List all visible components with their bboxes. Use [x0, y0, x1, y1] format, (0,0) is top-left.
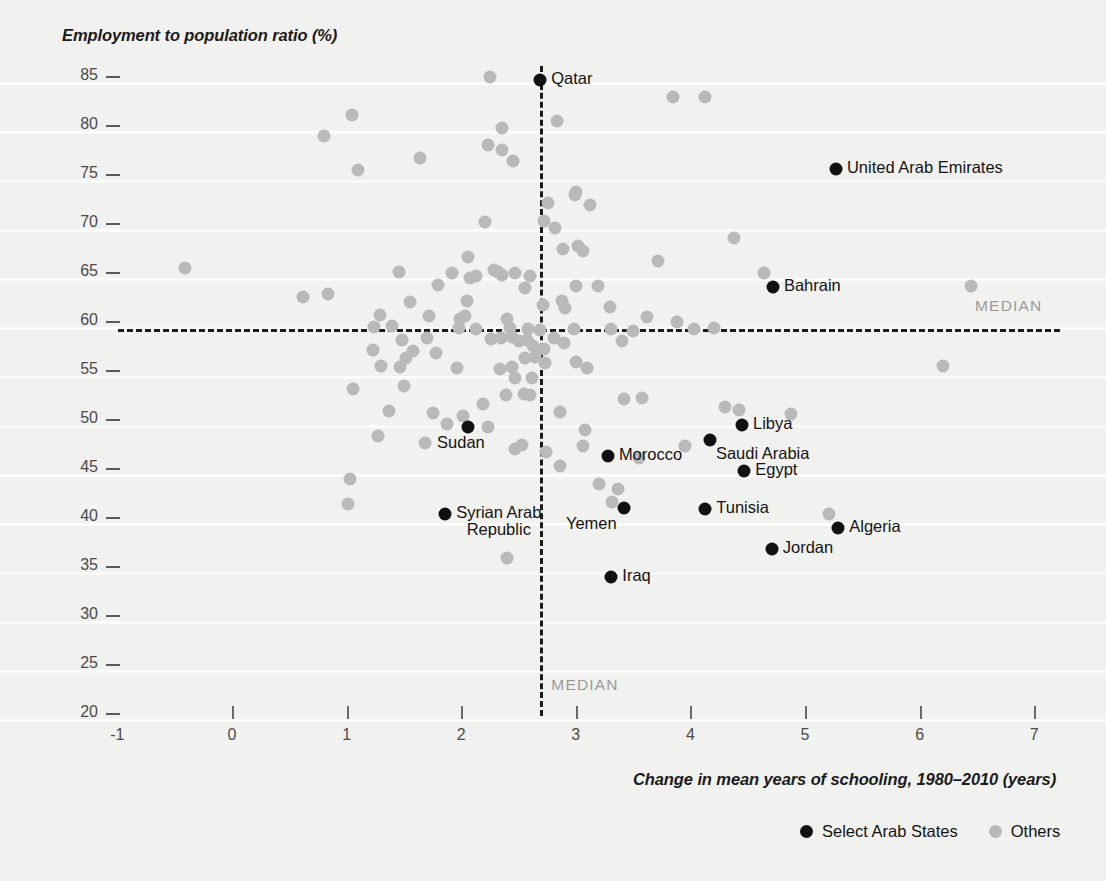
- data-point-libya[interactable]: [735, 418, 748, 431]
- data-point-other[interactable]: [499, 388, 512, 401]
- data-point-other[interactable]: [553, 406, 566, 419]
- data-point-qatar[interactable]: [534, 73, 547, 86]
- data-point-other[interactable]: [551, 115, 564, 128]
- data-point-other[interactable]: [423, 310, 436, 323]
- data-point-tunisia[interactable]: [699, 503, 712, 516]
- data-point-other[interactable]: [687, 322, 700, 335]
- data-point-other[interactable]: [386, 319, 399, 332]
- data-point-other[interactable]: [534, 323, 547, 336]
- data-point-other[interactable]: [509, 371, 522, 384]
- data-point-other[interactable]: [470, 322, 483, 335]
- data-point-other[interactable]: [341, 498, 354, 511]
- data-point-other[interactable]: [420, 331, 433, 344]
- data-point-other[interactable]: [509, 266, 522, 279]
- data-point-united-arab-emirates[interactable]: [829, 163, 842, 176]
- data-point-other[interactable]: [366, 344, 379, 357]
- data-point-other[interactable]: [317, 129, 330, 142]
- data-point-other[interactable]: [483, 70, 496, 83]
- data-point-other[interactable]: [581, 362, 594, 375]
- data-point-other[interactable]: [538, 357, 551, 370]
- data-point-other[interactable]: [617, 393, 630, 406]
- data-point-other[interactable]: [374, 360, 387, 373]
- data-point-other[interactable]: [393, 266, 406, 279]
- data-point-other[interactable]: [470, 269, 483, 282]
- data-point-other[interactable]: [400, 352, 413, 365]
- data-point-other[interactable]: [450, 362, 463, 375]
- data-point-iraq[interactable]: [605, 570, 618, 583]
- data-point-other[interactable]: [496, 144, 509, 157]
- data-point-other[interactable]: [936, 360, 949, 373]
- data-point-other[interactable]: [479, 216, 492, 229]
- data-point-other[interactable]: [557, 243, 570, 256]
- data-point-other[interactable]: [640, 311, 653, 324]
- data-point-other[interactable]: [592, 477, 605, 490]
- data-point-other[interactable]: [413, 152, 426, 165]
- data-point-other[interactable]: [567, 322, 580, 335]
- data-point-other[interactable]: [476, 398, 489, 411]
- data-point-other[interactable]: [432, 278, 445, 291]
- data-point-other[interactable]: [718, 401, 731, 414]
- data-point-other[interactable]: [578, 423, 591, 436]
- data-point-other[interactable]: [403, 296, 416, 309]
- data-point-other[interactable]: [965, 279, 978, 292]
- data-point-other[interactable]: [576, 440, 589, 453]
- data-point-other[interactable]: [542, 197, 555, 210]
- data-point-other[interactable]: [667, 90, 680, 103]
- data-point-other[interactable]: [481, 138, 494, 151]
- data-point-other[interactable]: [553, 460, 566, 473]
- data-point-other[interactable]: [322, 287, 335, 300]
- data-point-other[interactable]: [519, 281, 532, 294]
- data-point-other[interactable]: [352, 164, 365, 177]
- data-point-other[interactable]: [605, 322, 618, 335]
- data-point-other[interactable]: [732, 404, 745, 417]
- data-point-other[interactable]: [179, 262, 192, 275]
- data-point-other[interactable]: [604, 301, 617, 314]
- data-point-other[interactable]: [757, 266, 770, 279]
- data-point-other[interactable]: [615, 334, 628, 347]
- data-point-other[interactable]: [708, 321, 721, 334]
- data-point-yemen[interactable]: [617, 502, 630, 515]
- data-point-other[interactable]: [591, 279, 604, 292]
- data-point-other[interactable]: [569, 279, 582, 292]
- data-point-other[interactable]: [558, 336, 571, 349]
- data-point-other[interactable]: [383, 405, 396, 418]
- data-point-other[interactable]: [395, 333, 408, 346]
- data-point-other[interactable]: [368, 320, 381, 333]
- data-point-sudan[interactable]: [462, 420, 475, 433]
- data-point-other[interactable]: [699, 90, 712, 103]
- data-point-other[interactable]: [371, 429, 384, 442]
- data-point-other[interactable]: [523, 389, 536, 402]
- data-point-jordan[interactable]: [765, 543, 778, 556]
- data-point-other[interactable]: [441, 417, 454, 430]
- data-point-other[interactable]: [452, 321, 465, 334]
- data-point-other[interactable]: [540, 446, 553, 459]
- data-point-egypt[interactable]: [738, 464, 751, 477]
- data-point-bahrain[interactable]: [766, 280, 779, 293]
- data-point-other[interactable]: [496, 121, 509, 134]
- data-point-morocco[interactable]: [601, 450, 614, 463]
- data-point-other[interactable]: [670, 315, 683, 328]
- data-point-other[interactable]: [481, 420, 494, 433]
- data-point-other[interactable]: [823, 508, 836, 521]
- data-point-other[interactable]: [297, 290, 310, 303]
- data-point-other[interactable]: [426, 407, 439, 420]
- data-point-other[interactable]: [576, 245, 589, 258]
- data-point-other[interactable]: [418, 436, 431, 449]
- data-point-algeria[interactable]: [832, 521, 845, 534]
- data-point-other[interactable]: [501, 552, 514, 565]
- data-point-other[interactable]: [488, 264, 501, 277]
- data-point-other[interactable]: [612, 482, 625, 495]
- data-point-other[interactable]: [397, 379, 410, 392]
- data-point-other[interactable]: [727, 231, 740, 244]
- data-point-other[interactable]: [346, 109, 359, 122]
- data-point-other[interactable]: [462, 251, 475, 264]
- data-point-other[interactable]: [568, 188, 581, 201]
- data-point-other[interactable]: [460, 295, 473, 308]
- data-point-other[interactable]: [506, 155, 519, 168]
- data-point-other[interactable]: [344, 472, 357, 485]
- data-point-other[interactable]: [627, 324, 640, 337]
- data-point-other[interactable]: [526, 371, 539, 384]
- data-point-other[interactable]: [515, 439, 528, 452]
- data-point-other[interactable]: [652, 255, 665, 268]
- data-point-other[interactable]: [536, 299, 549, 312]
